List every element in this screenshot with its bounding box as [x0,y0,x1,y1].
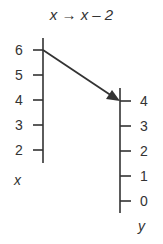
right-tick-label: 0 [140,194,148,208]
left-tick-label: 5 [15,68,23,82]
right-number-line [120,88,131,213]
left-tick-label: 3 [15,118,23,132]
right-tick-label: 2 [140,144,148,158]
left-number-line [33,38,43,163]
left-axis-variable: x [14,173,21,187]
left-tick-label: 2 [15,143,23,157]
left-tick-label: 6 [15,43,23,57]
right-tick-label: 1 [140,169,148,183]
mapping-diagram [0,0,163,244]
right-tick-label: 4 [140,94,148,108]
mapping-arrow-icon [43,50,120,101]
right-axis-variable: y [138,219,145,233]
right-tick-label: 3 [140,119,148,133]
left-tick-label: 4 [15,93,23,107]
